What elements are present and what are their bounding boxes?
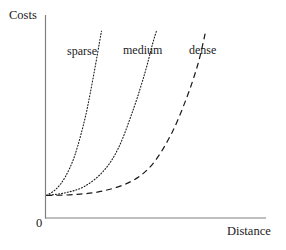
curve-label-medium: medium (123, 44, 162, 56)
curve-label-sparse: sparse (67, 45, 97, 57)
origin-tick-label: 0 (36, 217, 42, 230)
curve-label-dense: dense (189, 44, 216, 56)
chart-figure: Costs Distance 0 sparse medium dense (0, 0, 286, 250)
x-axis-title: Distance (227, 225, 271, 238)
y-axis-title: Costs (9, 9, 37, 22)
chart-plot-area (0, 0, 286, 250)
